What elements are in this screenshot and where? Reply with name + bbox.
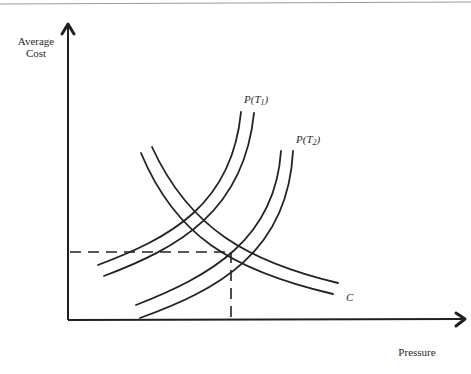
curve-p-t1	[98, 112, 254, 276]
curve-c-b	[152, 147, 338, 283]
y-axis-label-line1: Average	[18, 35, 55, 47]
curve-p-t1-a	[98, 112, 241, 265]
label-p-t2: P(T2)	[295, 133, 321, 147]
page-top-rule	[0, 2, 471, 4]
label-c: C	[346, 291, 354, 303]
label-p-t1: P(T1)	[243, 93, 269, 107]
x-axis	[68, 319, 462, 320]
cost-pressure-diagram: Average Cost Pressure P(T1) P(T2) C	[0, 0, 471, 374]
axes	[62, 24, 465, 326]
x-axis-label: Pressure	[398, 346, 435, 358]
curve-p-t2-a	[136, 151, 281, 305]
curve-p-t2	[136, 151, 293, 318]
y-axis-label-line2: Cost	[26, 47, 46, 59]
